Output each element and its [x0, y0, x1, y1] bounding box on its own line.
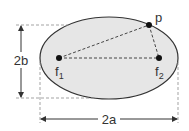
focus-1-point — [56, 55, 62, 61]
focus-2-point — [156, 55, 162, 61]
point-p — [146, 22, 152, 28]
ellipse-diagram: 2b 2a f1 f2 p — [0, 0, 189, 131]
minor-axis-label: 2b — [14, 53, 28, 68]
major-axis-label: 2a — [102, 112, 117, 127]
point-p-label: p — [155, 10, 162, 25]
